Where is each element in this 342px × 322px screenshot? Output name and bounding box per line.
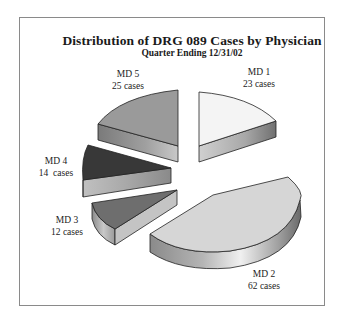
label-md2: MD 2 62 cases [234,268,294,292]
label-md1-name: MD 1 [229,66,289,78]
label-md5-name: MD 5 [98,68,158,80]
label-md5: MD 5 25 cases [98,68,158,92]
label-md1-value: 23 cases [229,78,289,90]
label-md4-name: MD 4 [26,155,86,167]
label-md4: MD 4 14 cases [26,155,86,179]
label-md4-value: 14 cases [26,167,86,179]
label-md3-name: MD 3 [37,214,97,226]
label-md3: MD 3 12 cases [37,214,97,238]
label-md2-value: 62 cases [234,280,294,292]
label-md5-value: 25 cases [98,80,158,92]
label-md2-name: MD 2 [234,268,294,280]
slice-md1 [199,92,276,162]
label-md3-value: 12 cases [37,226,97,238]
label-md1: MD 1 23 cases [229,66,289,90]
